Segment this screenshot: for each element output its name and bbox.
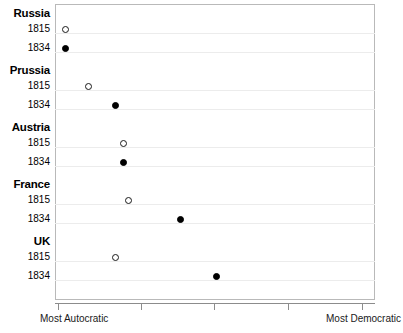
gridline: [55, 52, 375, 53]
data-point-open-circle: [85, 83, 92, 90]
y-axis-year-label: 1815: [0, 137, 50, 148]
data-point-open-circle: [125, 197, 132, 204]
gridline: [55, 204, 375, 205]
gridline: [55, 223, 375, 224]
y-axis-year-label: 1815: [0, 23, 50, 34]
y-axis-year-label: 1834: [0, 270, 50, 281]
data-point-filled-circle: [120, 159, 127, 166]
data-point-open-circle: [120, 140, 127, 147]
x-axis-tick: [214, 303, 215, 310]
data-point-filled-circle: [112, 102, 119, 109]
data-point-open-circle: [112, 254, 119, 261]
gridline: [55, 90, 375, 91]
data-point-filled-circle: [62, 45, 69, 52]
gridline: [55, 147, 375, 148]
y-axis-year-label: 1834: [0, 42, 50, 53]
y-axis-group-label-prussia: Prussia: [0, 65, 50, 76]
x-axis-tick: [141, 303, 142, 310]
gridline: [55, 261, 375, 262]
data-point-open-circle: [62, 26, 69, 33]
data-point-filled-circle: [177, 216, 184, 223]
y-axis-group-label-france: France: [0, 179, 50, 190]
x-axis-right-annotation: Most Democratic: [326, 313, 401, 324]
y-axis-labels: Russia18151834Prussia18151834Austria1815…: [0, 0, 50, 300]
scatter-chart: Russia18151834Prussia18151834Austria1815…: [0, 0, 403, 333]
y-axis-group-label-russia: Russia: [0, 8, 50, 19]
plot-area: [55, 4, 375, 300]
gridline: [55, 33, 375, 34]
x-axis-tick: [362, 303, 363, 310]
y-axis-year-label: 1815: [0, 251, 50, 262]
y-axis-group-label-uk: UK: [0, 236, 50, 247]
x-axis-tick: [58, 303, 59, 310]
gridline: [55, 166, 375, 167]
x-axis-tick: [288, 303, 289, 310]
gridline: [55, 280, 375, 281]
data-point-filled-circle: [213, 273, 220, 280]
y-axis-year-label: 1815: [0, 80, 50, 91]
x-axis-left-annotation: Most Autocratic: [40, 313, 108, 324]
y-axis-year-label: 1834: [0, 99, 50, 110]
gridline: [55, 109, 375, 110]
x-axis-line: [55, 303, 375, 304]
y-axis-year-label: 1815: [0, 194, 50, 205]
y-axis-year-label: 1834: [0, 213, 50, 224]
y-axis-group-label-austria: Austria: [0, 122, 50, 133]
y-axis-year-label: 1834: [0, 156, 50, 167]
